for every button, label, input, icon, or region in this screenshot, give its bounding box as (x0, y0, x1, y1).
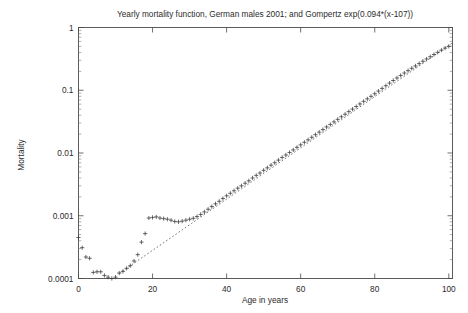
x-tick-label: 20 (148, 284, 158, 294)
y-tick-label: 0.001 (53, 211, 74, 221)
mortality-chart-figure: Yearly mortality function, German males … (0, 0, 468, 313)
y-tick-label: 0.01 (57, 148, 74, 158)
y-tick-label: 0.0001 (48, 274, 74, 284)
x-axis-label: Age in years (242, 295, 288, 305)
y-tick-label: 0.1 (62, 85, 74, 95)
x-tick-label: 0 (76, 284, 81, 294)
chart-title: Yearly mortality function, German males … (117, 9, 413, 19)
x-tick-label: 40 (222, 284, 232, 294)
y-tick-label: 1 (69, 23, 74, 33)
y-axis-label: Mortality (16, 138, 26, 170)
chart-canvas: Yearly mortality function, German males … (0, 0, 468, 313)
x-tick-label: 80 (370, 284, 380, 294)
x-tick-label: 60 (296, 284, 306, 294)
x-tick-label: 100 (442, 284, 456, 294)
